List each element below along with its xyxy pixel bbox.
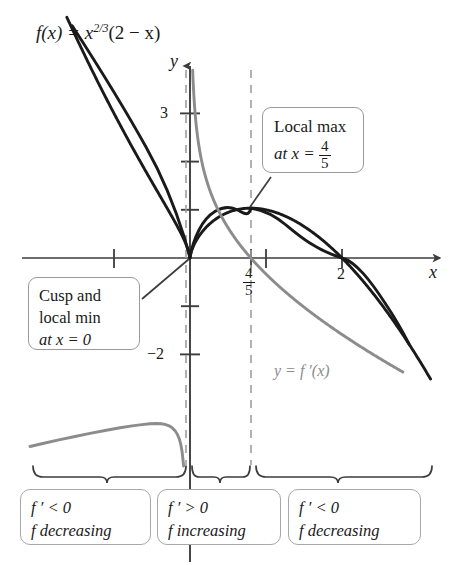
callout-local-max: Local max at x = 4 5 — [262, 107, 364, 173]
sign-box-2-derivative: f ′ > 0 — [168, 496, 280, 519]
sign-box-1-derivative: f ′ < 0 — [31, 496, 150, 519]
fraction-numerator: 4 — [243, 266, 255, 282]
figure-container: f(x) = x2/3(2 − x) y x 3 −2 4 5 2 y = f … — [0, 0, 457, 565]
x-axis-label: x — [429, 263, 437, 281]
title-exponent: 2/3 — [93, 21, 108, 35]
y-tick-label-minus-2: −2 — [147, 346, 164, 362]
figure-title: f(x) = x2/3(2 − x) — [36, 22, 160, 42]
callout-cusp-local-min: Cusp and local min at x = 0 — [28, 277, 140, 350]
brace-interval-2 — [192, 466, 250, 483]
callout-fraction-numerator: 4 — [319, 139, 331, 155]
fraction-four-fifths: 4 5 — [243, 266, 255, 299]
sign-box-3-derivative: f ′ < 0 — [299, 496, 420, 519]
x-tick-label-2: 2 — [337, 266, 345, 282]
function-curve-right-branch — [190, 208, 431, 379]
leader-line-local-max — [250, 177, 271, 207]
callout-cusp-line-2: local min — [39, 307, 139, 329]
sign-box-2-behavior: f increasing — [168, 519, 280, 542]
callout-local-max-line-2: at x = 4 5 — [274, 139, 363, 172]
sign-box-interval-1: f ′ < 0 f decreasing — [20, 489, 151, 545]
sign-box-interval-2: f ′ > 0 f increasing — [157, 489, 281, 545]
fraction-four-fifths-callout: 4 5 — [319, 139, 331, 172]
x-tick-label-four-fifths: 4 5 — [243, 266, 255, 299]
callout-cusp-line-3: at x = 0 — [39, 329, 139, 351]
title-suffix: (2 − x) — [108, 22, 160, 43]
title-prefix: f(x) = x — [36, 22, 93, 43]
callout-local-max-prefix: at x = — [274, 144, 319, 163]
derivative-curve-left — [30, 424, 184, 467]
sign-box-1-behavior: f decreasing — [31, 519, 150, 542]
y-axis-label: y — [170, 52, 178, 70]
y-tick-label-3: 3 — [160, 105, 168, 121]
sign-box-interval-3: f ′ < 0 f decreasing — [288, 489, 421, 545]
callout-fraction-denominator: 5 — [319, 155, 331, 172]
brace-interval-1 — [33, 466, 186, 483]
leader-line-cusp — [142, 259, 189, 299]
callout-cusp-line-1: Cusp and — [39, 285, 139, 307]
callout-local-max-line-1: Local max — [274, 116, 363, 139]
sign-box-3-behavior: f decreasing — [299, 519, 420, 542]
brace-interval-3 — [256, 466, 432, 483]
interval-braces — [33, 466, 432, 483]
derivative-curve-label: y = f ′(x) — [274, 363, 330, 379]
fraction-denominator: 5 — [243, 282, 255, 299]
